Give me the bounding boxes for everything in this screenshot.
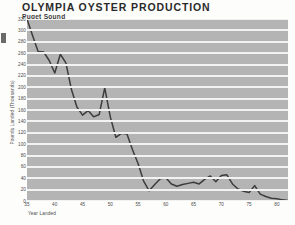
gridline bbox=[27, 19, 288, 20]
gridline bbox=[27, 75, 288, 77]
x-tick-label: 75 bbox=[239, 202, 259, 208]
x-tick-label: 40 bbox=[45, 202, 65, 208]
gridline bbox=[27, 86, 288, 88]
gridline bbox=[27, 166, 288, 168]
y-tick-label: 220 bbox=[4, 73, 26, 78]
x-tick-label: 50 bbox=[100, 202, 120, 208]
x-tick-label: 80 bbox=[267, 202, 287, 208]
gridline bbox=[27, 98, 288, 100]
y-tick-label: 320 bbox=[4, 17, 26, 22]
y-tick-label: 280 bbox=[4, 39, 26, 44]
gridline bbox=[27, 29, 288, 31]
x-axis-label: Year Landed bbox=[28, 211, 56, 216]
y-tick-label: 140 bbox=[4, 119, 26, 124]
gridline bbox=[27, 64, 288, 66]
y-tick-label: 200 bbox=[4, 85, 26, 90]
plot-area bbox=[27, 19, 288, 201]
gridline bbox=[27, 120, 288, 122]
y-tick-label: 120 bbox=[4, 130, 26, 135]
y-tick-label: 300 bbox=[4, 28, 26, 33]
gridline bbox=[27, 177, 288, 179]
gridline bbox=[27, 189, 288, 191]
x-tick-label: 65 bbox=[184, 202, 204, 208]
gridline bbox=[27, 41, 288, 43]
x-tick-label: 35 bbox=[17, 202, 37, 208]
x-tick-label: 45 bbox=[73, 202, 93, 208]
x-tick-label: 70 bbox=[211, 202, 231, 208]
y-tick-label: 20 bbox=[4, 187, 26, 192]
title-block: OLYMPIA OYSTER PRODUCTION Puget Sound bbox=[22, 1, 262, 21]
gridline bbox=[27, 52, 288, 54]
gridline bbox=[27, 200, 288, 201]
x-tick-label: 55 bbox=[128, 202, 148, 208]
y-tick-label: 240 bbox=[4, 62, 26, 67]
x-tick-label: 60 bbox=[156, 202, 176, 208]
chart-figure: OLYMPIA OYSTER PRODUCTION Puget Sound 32… bbox=[0, 0, 295, 225]
gridline bbox=[27, 155, 288, 157]
y-tick-label: 180 bbox=[4, 96, 26, 101]
gridline bbox=[27, 132, 288, 134]
y-tick-label: 80 bbox=[4, 153, 26, 158]
gridline bbox=[27, 143, 288, 145]
x-axis-ticks: 35404550556065707580 bbox=[27, 202, 288, 212]
gridline bbox=[27, 109, 288, 111]
chart-title: OLYMPIA OYSTER PRODUCTION bbox=[22, 1, 262, 13]
y-tick-label: 40 bbox=[4, 176, 26, 181]
y-tick-label: 100 bbox=[4, 142, 26, 147]
y-tick-label: 260 bbox=[4, 51, 26, 56]
y-tick-label: 60 bbox=[4, 164, 26, 169]
y-axis-label: Pounds Landed (Thousands) bbox=[10, 73, 15, 153]
y-tick-label: 160 bbox=[4, 108, 26, 113]
